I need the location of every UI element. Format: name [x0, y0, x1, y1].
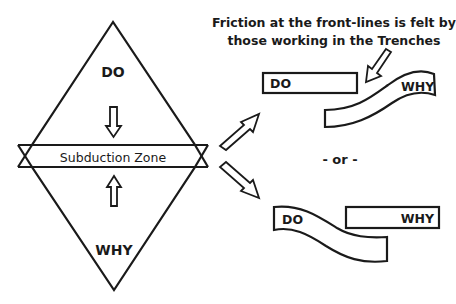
why-triangle-label: WHY: [95, 242, 133, 258]
or-separator: - or -: [322, 152, 357, 167]
arrow-up-right-icon: [220, 114, 259, 150]
do-triangle-label: DO: [101, 64, 125, 80]
up-arrow-icon: [107, 176, 121, 206]
caption-line-2: those working in the Trenches: [228, 33, 441, 48]
top-do-label: DO: [270, 76, 291, 91]
pointer-arrow-icon: [366, 49, 391, 82]
down-arrow-icon: [106, 107, 121, 137]
bottom-why-label: WHY: [401, 211, 435, 226]
subduction-diagram: DO Subduction Zone WHY Friction at the f…: [0, 0, 456, 304]
caption-line-1: Friction at the front-lines is felt by: [212, 15, 456, 30]
bottom-do-label: DO: [282, 212, 303, 227]
top-why-label: WHY: [401, 79, 435, 94]
arrow-down-right-icon: [220, 162, 259, 198]
subduction-zone-label: Subduction Zone: [60, 150, 167, 165]
